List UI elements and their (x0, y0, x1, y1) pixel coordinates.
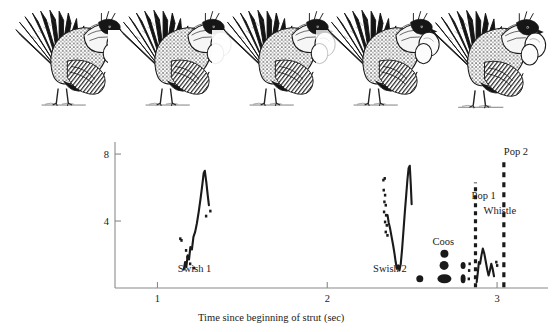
series-whistle (477, 249, 494, 282)
y-tick-label: 4 (104, 216, 110, 227)
axes-layer: 48123 (104, 142, 548, 304)
series-swish-1 (184, 171, 209, 270)
figure-panel: 48123 Swish 1Swish 2CoosPop 1WhistlePop … (0, 0, 557, 332)
spectrogram-svg: 48123 Swish 1Swish 2CoosPop 1WhistlePop … (0, 130, 557, 332)
annotation-swish-1: Swish 1 (178, 263, 212, 274)
series-swish-2-speckle (382, 177, 388, 237)
y-tick-label: 8 (104, 149, 109, 160)
bird-sequence-svg (0, 0, 557, 130)
x-tick-label: 1 (155, 293, 160, 304)
spectrogram-panel: 48123 Swish 1Swish 2CoosPop 1WhistlePop … (0, 130, 557, 332)
annotation-swish-2: Swish 2 (373, 263, 407, 274)
x-axis-title: Time since beginning of strut (sec) (198, 312, 344, 323)
x-tick-label: 2 (325, 293, 330, 304)
series-swish-1-speckle (179, 210, 211, 270)
bird-pose-1 (16, 10, 142, 106)
bird-pose-4 (328, 10, 439, 106)
x-tick-label: 3 (494, 293, 499, 304)
annotation-pop-2: Pop 2 (504, 146, 528, 157)
annotation-pop-1: Pop 1 (472, 190, 496, 201)
series-coos (416, 250, 465, 284)
annotation-coos: Coos (433, 236, 455, 247)
bird-pose-sequence (0, 0, 557, 130)
annotation-whistle: Whistle (483, 205, 516, 216)
series-layer (179, 159, 504, 287)
series-swish-2 (388, 166, 412, 271)
bird-pose-5 (432, 10, 546, 108)
